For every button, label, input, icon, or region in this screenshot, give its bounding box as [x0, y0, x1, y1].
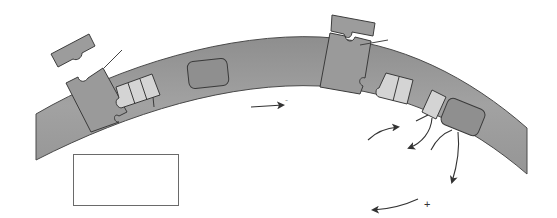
- effector-mid: [187, 58, 230, 89]
- minus-sign: -: [285, 96, 288, 105]
- receptor-left-pointer: [104, 50, 122, 68]
- arrow-curve-3: [452, 132, 459, 182]
- arrow-curve-4: [373, 199, 418, 210]
- ligand-left: [51, 34, 95, 67]
- empty-label-box: [73, 154, 179, 206]
- arrow-curve-2: [409, 118, 432, 148]
- plus-sign: +: [424, 199, 430, 210]
- arrows-right: [368, 115, 459, 210]
- arrow-mid: [251, 105, 283, 107]
- diagram-stage: - +: [0, 0, 557, 218]
- arrow-curve-1: [368, 127, 398, 140]
